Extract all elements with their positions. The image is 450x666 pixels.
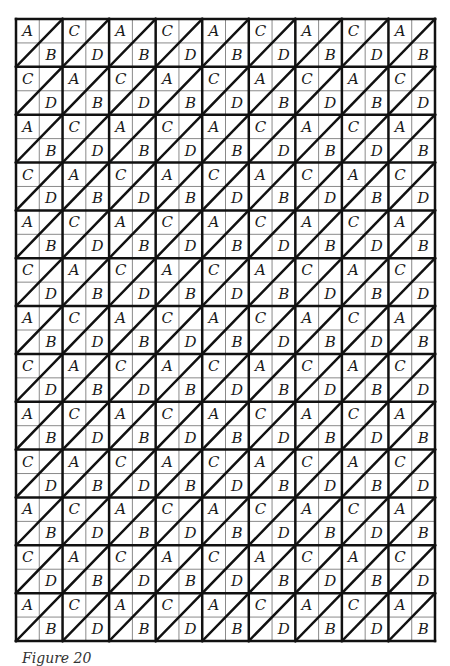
grid-lines bbox=[16, 19, 435, 641]
quilt-grid-figure: ABCDABCDABCDABCDABCDABCDABCDABCDABCDABCD… bbox=[16, 19, 435, 641]
figure-caption: Figure 20 bbox=[22, 650, 91, 666]
